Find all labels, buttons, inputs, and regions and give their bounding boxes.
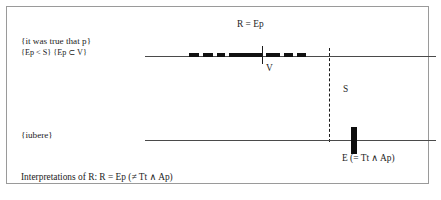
figure-canvas: {it was true that p} {Ep < S} {Ep ⊂ V} R… xyxy=(0,0,441,200)
interval-segment xyxy=(229,53,262,57)
e-event-bar xyxy=(351,127,357,154)
s-dashed-line xyxy=(329,48,330,142)
interval-segment xyxy=(284,53,293,57)
e-event-label: E (= Tt ∧ Ap) xyxy=(342,154,395,164)
lower-left-label: {iubere} xyxy=(21,131,53,141)
interval-segment xyxy=(266,53,280,57)
v-tick-label: V xyxy=(266,64,273,74)
r-equals-ep-tick xyxy=(262,46,263,64)
upper-left-label-line2: {Ep < S} {Ep ⊂ V} xyxy=(21,49,87,58)
figure-frame: {it was true that p} {Ep < S} {Ep ⊂ V} R… xyxy=(6,6,429,184)
interval-segment xyxy=(189,53,199,57)
upper-track-top-label: R = Ep xyxy=(237,20,264,30)
s-line-label: S xyxy=(343,85,348,95)
interval-segment xyxy=(203,53,213,57)
footer-caption: Interpretations of R: R = Ep (≠ Tt ∧ Ap) xyxy=(21,173,173,183)
interval-segment xyxy=(217,53,225,57)
lower-timeline-axis xyxy=(145,140,436,141)
interval-segment xyxy=(297,53,306,57)
upper-left-label-line1: {it was true that p} xyxy=(21,37,91,47)
